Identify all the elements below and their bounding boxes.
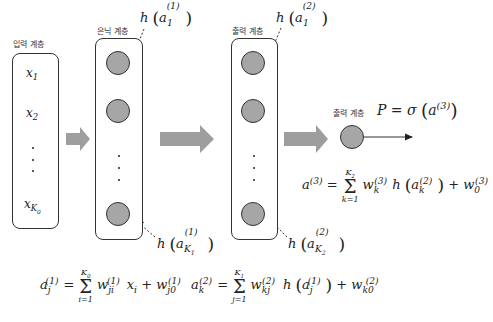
equation-a1: aj(1)= K0Σi=1 wji(1)xi + wj0(1) [40,268,189,304]
second-layer-label: 출력 계층 [232,25,263,36]
block-arrow-1 [66,127,90,151]
second-node-2 [241,99,265,123]
block-arrow-2 [160,125,214,153]
second-node-K2 [241,202,265,226]
output-layer-label: 출력 계층 [333,107,364,118]
equation-a3: a(3) = K2Σk=1 wk(3)h (ak(2)) + w0(3) [302,168,493,204]
hidden-layer-label: 은닉 계층 [97,25,128,36]
input-layer-label: 입력 계층 [13,38,44,49]
hidden-node-1 [106,51,130,75]
hidden-node-K1 [106,202,130,226]
annotation-h-aK1-1: h (aK1(1)) [157,234,214,256]
annotation-h-aK2-2: h (aK2(2)) [288,234,345,256]
output-probability: P = σ (a(3)) [377,100,458,121]
second-node-1 [241,51,265,75]
block-arrow-3 [284,125,328,153]
equation-a2: ak(2)= K1Σj=1 wkj(2)h (aj(1)) + wk0(2) [191,268,387,304]
output-arrow-head [405,134,413,141]
input-xK0: xK0 [24,197,41,215]
annotation-h-a1-2: h (a1(2)) [276,8,328,28]
output-node [340,125,364,149]
annotation-h-a1-1: h (a1(1)) [140,8,192,28]
input-x1: x1 [26,66,38,82]
input-x2: x2 [26,106,38,122]
hidden-node-2 [106,99,130,123]
